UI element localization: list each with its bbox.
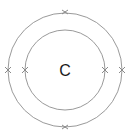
bohr-diagram: C: [0, 0, 135, 140]
nucleus-label: C: [59, 62, 71, 79]
